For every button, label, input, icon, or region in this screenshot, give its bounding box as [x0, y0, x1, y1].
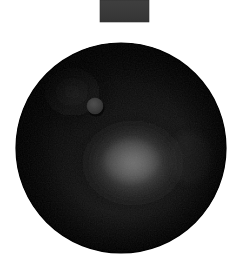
scene-svg: [0, 0, 240, 275]
gray-rectangle-tab-fill: [100, 0, 149, 22]
black-ball: [16, 43, 226, 253]
ball-surface-grain: [16, 43, 226, 253]
image-canvas: A black rubber ball with a small round g…: [0, 0, 240, 275]
gray-rectangle-tab: [100, 0, 149, 22]
